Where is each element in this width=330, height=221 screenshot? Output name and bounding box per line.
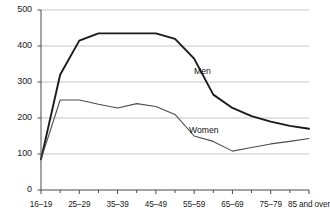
y-axis-tick-label: 500 bbox=[8, 4, 32, 14]
y-axis-tick-label: 200 bbox=[8, 112, 32, 122]
data-series-group bbox=[41, 33, 309, 159]
x-axis-tick-label: 45–49 bbox=[145, 200, 167, 209]
y-axis-tick-label: 400 bbox=[8, 40, 32, 50]
x-axis-tick-label: 65–69 bbox=[221, 200, 243, 209]
x-axis-tick-label: 55–59 bbox=[183, 200, 205, 209]
series-line-women bbox=[41, 100, 309, 159]
y-axis-tick-label: 0 bbox=[8, 184, 32, 194]
x-axis-tick-label: 25–29 bbox=[68, 200, 90, 209]
series-annotation-women: Women bbox=[189, 125, 218, 135]
x-axis-tick-label: 85 and over bbox=[288, 200, 330, 209]
series-line-men bbox=[41, 33, 309, 159]
gridlines bbox=[41, 10, 309, 154]
x-axis-tick-label: 75–79 bbox=[260, 200, 282, 209]
series-annotation-men: Men bbox=[194, 66, 211, 76]
y-axis-tick-label: 300 bbox=[8, 76, 32, 86]
y-axis-ticks bbox=[38, 10, 42, 190]
x-axis-tick-label: 16–19 bbox=[30, 200, 52, 209]
y-axis-tick-label: 100 bbox=[8, 148, 32, 158]
x-axis-tick-label: 35–39 bbox=[106, 200, 128, 209]
x-axis-ticks bbox=[41, 190, 309, 194]
